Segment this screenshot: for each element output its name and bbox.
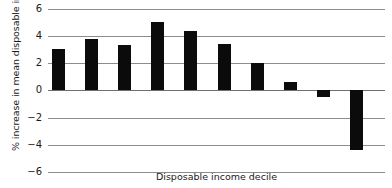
y-axis-tick-labels: 6 4 2 0 −2 −4 −6 <box>18 0 42 188</box>
bar <box>251 63 264 90</box>
bar <box>350 90 363 150</box>
bar <box>284 82 297 90</box>
gridline-neg4 <box>48 145 385 146</box>
gridline-4 <box>48 36 385 37</box>
y-tick-label: 2 <box>18 58 42 68</box>
bar <box>218 44 231 90</box>
gridline-0 <box>48 90 385 91</box>
y-tick-label: 6 <box>18 4 42 14</box>
gridline-2 <box>48 63 385 64</box>
bar <box>118 45 131 90</box>
bar <box>151 22 164 90</box>
gridline-neg2 <box>48 118 385 119</box>
x-axis-title: Disposable income decile <box>48 171 385 183</box>
y-tick-label: 0 <box>18 85 42 95</box>
plot-area <box>48 0 385 188</box>
bar <box>52 49 65 90</box>
y-tick-label: −4 <box>18 140 42 150</box>
gridline-6 <box>48 9 385 10</box>
y-tick-label: −2 <box>18 113 42 123</box>
bar <box>317 90 330 97</box>
bar <box>85 39 98 90</box>
y-tick-label: −6 <box>18 167 42 177</box>
bar-chart-figure: % increase in mean disposable income 6 4… <box>0 0 392 188</box>
y-tick-label: 4 <box>18 31 42 41</box>
bar <box>184 31 197 90</box>
